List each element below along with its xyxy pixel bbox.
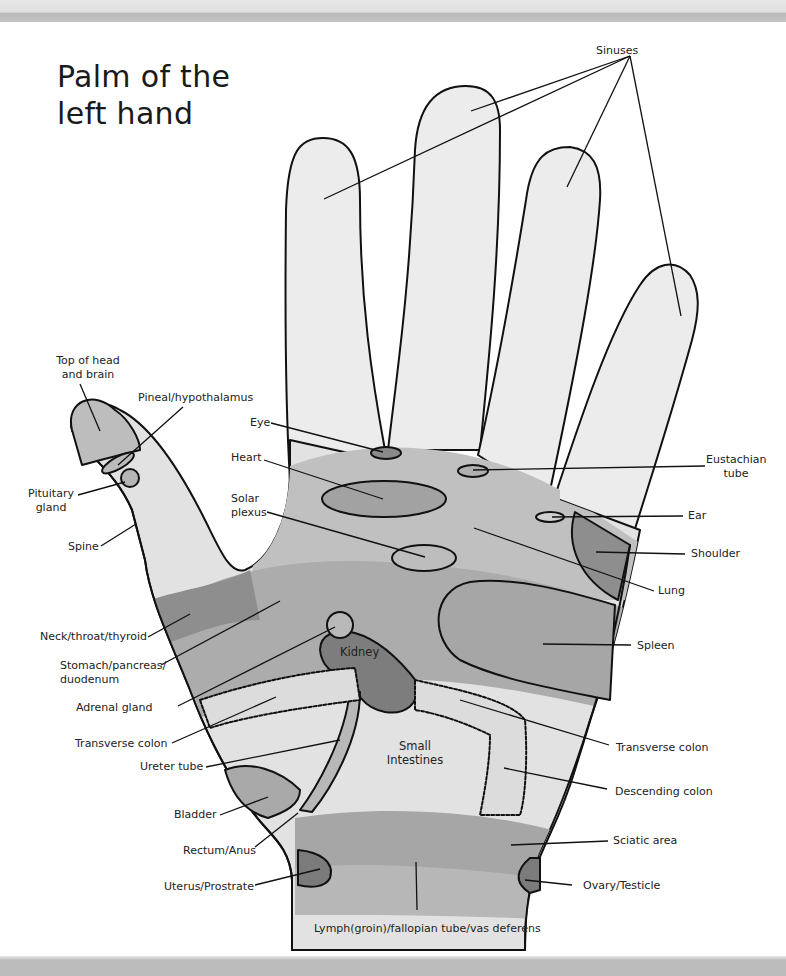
- label-solar-line2: plexus: [231, 506, 267, 520]
- label-sciatic: Sciatic area: [613, 834, 677, 848]
- label-lung: Lung: [658, 584, 685, 598]
- label-sinuses: Sinuses: [596, 44, 638, 58]
- label-stomach: Stomach/pancreas/ duodenum: [60, 659, 166, 687]
- label-eustachian-line2: tube: [706, 467, 766, 481]
- label-stomach-line1: Stomach/pancreas/: [60, 659, 166, 673]
- label-ureter: Ureter tube: [140, 760, 203, 774]
- label-lymph: Lymph(groin)/fallopian tube/vas deferens: [314, 922, 541, 936]
- label-ovary: Ovary/Testicle: [583, 879, 660, 893]
- label-small-int-line2: Intestines: [380, 753, 450, 767]
- label-shoulder: Shoulder: [691, 547, 740, 561]
- label-pituitary-line2: gland: [26, 501, 76, 515]
- label-eustachian-line1: Eustachian: [706, 453, 766, 467]
- label-spleen: Spleen: [637, 639, 675, 653]
- label-rectum: Rectum/Anus: [183, 844, 256, 858]
- label-small-intestines: Small Intestines: [380, 739, 450, 767]
- label-eustachian: Eustachian tube: [706, 453, 766, 481]
- label-top-of-head: Top of head and brain: [44, 354, 132, 382]
- label-small-int-line1: Small: [380, 739, 450, 753]
- label-adrenal: Adrenal gland: [76, 701, 152, 715]
- label-solar-line1: Solar: [231, 492, 267, 506]
- label-ear: Ear: [688, 509, 706, 523]
- label-pituitary-line1: Pituitary: [26, 487, 76, 501]
- label-uterus: Uterus/Prostrate: [164, 880, 254, 894]
- label-stomach-line2: duodenum: [60, 673, 166, 687]
- label-heart: Heart: [231, 451, 262, 465]
- label-pituitary: Pituitary gland: [26, 487, 76, 515]
- label-top-of-head-line1: Top of head: [44, 354, 132, 368]
- label-descending-colon: Descending colon: [615, 785, 713, 799]
- label-kidney: Kidney: [340, 645, 379, 659]
- label-solar-plexus: Solar plexus: [231, 492, 267, 520]
- label-bladder: Bladder: [174, 808, 217, 822]
- label-neck: Neck/throat/thyroid: [40, 630, 147, 644]
- label-top-of-head-line2: and brain: [44, 368, 132, 382]
- leader-lines: [0, 0, 786, 976]
- label-eye: Eye: [250, 416, 270, 430]
- bottom-frame-bar: [0, 956, 786, 976]
- label-pineal: Pineal/hypothalamus: [138, 391, 253, 405]
- label-transverse-colon-left: Transverse colon: [75, 737, 167, 751]
- label-spine: Spine: [68, 540, 99, 554]
- label-transverse-colon-right: Transverse colon: [616, 741, 708, 755]
